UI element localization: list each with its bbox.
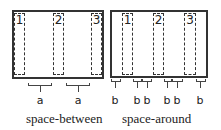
item-number: 1 (123, 14, 132, 27)
gap-label: a (73, 95, 83, 107)
item-number: 1 (15, 14, 24, 27)
bracket-stem (137, 82, 138, 88)
bracket-stem (200, 82, 201, 88)
item-number: 3 (185, 14, 195, 27)
flex-item-2: 2 (153, 13, 164, 75)
bracket-stem (115, 82, 116, 88)
item-number: 2 (54, 14, 63, 27)
bracket-stem (147, 82, 148, 88)
flex-item-2: 2 (53, 13, 64, 75)
gap-label: b (142, 95, 152, 107)
bracket-stem (40, 86, 41, 92)
gap-bracket (111, 79, 121, 82)
caption-space-around: space-around (122, 112, 191, 126)
flex-item-1: 1 (122, 13, 133, 75)
item-number: 3 (92, 14, 101, 27)
gap-bracket (164, 79, 172, 82)
flex-item-3: 3 (91, 13, 102, 75)
caption-space-between: space-between (26, 112, 103, 126)
gap-label: b (132, 95, 142, 107)
flex-item-3: 3 (184, 13, 196, 75)
gap-bracket (196, 79, 206, 82)
gap-label: a (35, 95, 45, 107)
flex-item-1: 1 (14, 13, 25, 75)
item-number: 2 (154, 14, 163, 27)
gap-label: b (172, 95, 182, 107)
gap-label: b (110, 95, 120, 107)
gap-label: b (195, 95, 205, 107)
bracket-stem (78, 86, 79, 92)
bracket-stem (177, 82, 178, 88)
gap-label: b (162, 95, 172, 107)
bracket-stem (167, 82, 168, 88)
